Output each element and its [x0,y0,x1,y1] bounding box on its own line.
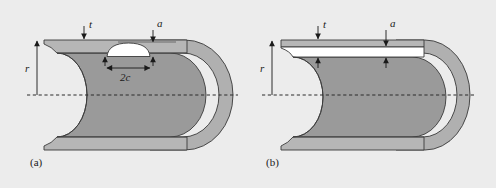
panel-caption-a: (a) [30,156,43,169]
label-radius-b: r [260,62,265,74]
label-radius-a: r [25,62,30,74]
through-wall-flaw-b [281,47,424,57]
vessel-bottom-wall-b [281,137,424,150]
panel-caption-b: (b) [266,156,279,169]
label-flaw-depth-b: a [390,17,396,29]
label-flaw-length-a: 2c [120,71,131,83]
vessel-bottom-wall-a [44,137,187,150]
pressure-vessel-flaw-diagram: t a 2c r (a) [0,0,496,188]
figure-container: t a 2c r (a) [0,0,496,188]
label-flaw-depth-a: a [157,17,163,29]
vessel-top-wall-b [281,40,424,47]
